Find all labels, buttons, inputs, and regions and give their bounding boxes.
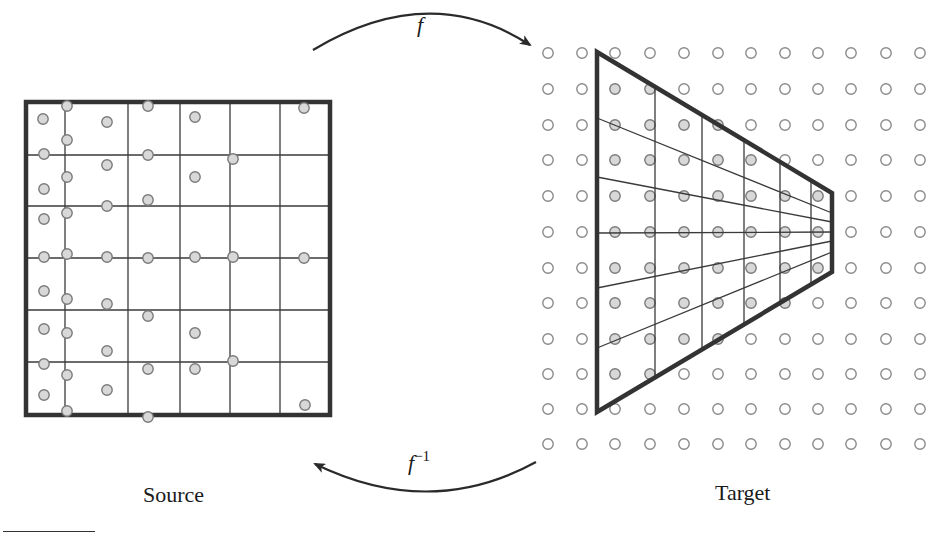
target-sample-filled — [746, 263, 756, 273]
target-sample-filled — [813, 191, 823, 201]
target-sample-empty — [746, 404, 756, 414]
target-sample-empty — [543, 404, 553, 414]
source-sample-point — [143, 412, 153, 422]
source-sample-point — [143, 101, 153, 111]
target-sample-empty — [577, 120, 587, 130]
target-sample-filled — [610, 155, 620, 165]
target-sample-filled — [645, 298, 655, 308]
target-sample-empty — [577, 155, 587, 165]
target-sample-empty — [780, 404, 790, 414]
forward-map-label: f — [417, 12, 423, 38]
target-sample-empty — [746, 439, 756, 449]
source-sample-point — [228, 356, 238, 366]
target-sample-empty — [543, 48, 553, 58]
target-sample-empty — [543, 298, 553, 308]
source-sample-point — [38, 114, 48, 124]
target-sample-filled — [610, 263, 620, 273]
target-warped-grid — [597, 52, 832, 412]
target-sample-empty — [713, 404, 723, 414]
target-sample-empty — [915, 263, 925, 273]
target-sample-empty — [713, 439, 723, 449]
target-sample-empty — [881, 155, 891, 165]
source-sample-point — [190, 112, 200, 122]
source-sample-point — [39, 252, 49, 262]
target-sample-empty — [543, 227, 553, 237]
target-sample-filled — [645, 334, 655, 344]
source-sample-point — [62, 135, 72, 145]
source-sample-point — [39, 359, 49, 369]
target-sample-filled — [610, 227, 620, 237]
target-sample-empty — [881, 298, 891, 308]
target-sample-empty — [846, 120, 856, 130]
target-sample-filled — [610, 298, 620, 308]
target-sample-empty — [780, 120, 790, 130]
source-sample-point — [102, 299, 112, 309]
target-sample-empty — [915, 48, 925, 58]
target-sample-empty — [679, 439, 689, 449]
source-sample-point — [228, 154, 238, 164]
target-sample-empty — [881, 48, 891, 58]
target-sample-empty — [846, 334, 856, 344]
target-sample-empty — [713, 84, 723, 94]
target-sample-empty — [543, 191, 553, 201]
target-sample-empty — [915, 155, 925, 165]
target-sample-empty — [780, 48, 790, 58]
image-warping-diagram — [0, 0, 947, 546]
footnote-divider — [3, 531, 95, 532]
target-sample-empty — [846, 298, 856, 308]
target-sample-empty — [915, 369, 925, 379]
target-sample-empty — [746, 48, 756, 58]
source-sample-point — [62, 406, 72, 416]
target-sample-empty — [577, 191, 587, 201]
target-sample-filled — [645, 120, 655, 130]
target-sample-empty — [679, 84, 689, 94]
source-sample-point — [102, 117, 112, 127]
target-sample-empty — [679, 369, 689, 379]
target-sample-empty — [846, 84, 856, 94]
target-sample-empty — [543, 120, 553, 130]
target-sample-filled — [645, 227, 655, 237]
target-sample-empty — [780, 334, 790, 344]
target-sample-filled — [645, 155, 655, 165]
target-sample-filled — [679, 334, 689, 344]
target-sample-empty — [813, 334, 823, 344]
source-sample-point — [143, 195, 153, 205]
target-sample-empty — [577, 298, 587, 308]
target-sample-empty — [915, 404, 925, 414]
target-sample-filled — [610, 84, 620, 94]
target-sample-empty — [746, 369, 756, 379]
target-sample-empty — [577, 439, 587, 449]
source-sample-point — [190, 172, 200, 182]
target-sample-empty — [780, 369, 790, 379]
target-sample-filled — [746, 191, 756, 201]
target-sample-filled — [679, 298, 689, 308]
source-sample-point — [190, 252, 200, 262]
target-sample-empty — [881, 369, 891, 379]
source-sample-point — [62, 249, 72, 259]
source-sample-point — [143, 364, 153, 374]
target-sample-empty — [846, 369, 856, 379]
target-sample-filled — [645, 263, 655, 273]
source-sample-point — [39, 286, 49, 296]
target-grid-line — [597, 177, 832, 222]
target-sample-empty — [543, 263, 553, 273]
source-sample-point — [62, 172, 72, 182]
target-sample-empty — [846, 439, 856, 449]
source-sample-point — [102, 385, 112, 395]
source-sample-point — [190, 328, 200, 338]
target-sample-empty — [813, 298, 823, 308]
target-sample-empty — [881, 263, 891, 273]
target-sample-filled — [746, 155, 756, 165]
target-sample-empty — [577, 369, 587, 379]
target-sample-empty — [881, 84, 891, 94]
target-sample-empty — [881, 439, 891, 449]
target-grid-line — [597, 232, 832, 233]
target-sample-empty — [577, 227, 587, 237]
target-sample-empty — [813, 404, 823, 414]
target-sample-empty — [881, 191, 891, 201]
target-sample-empty — [915, 84, 925, 94]
target-sample-empty — [610, 48, 620, 58]
target-sample-empty — [915, 191, 925, 201]
target-sample-empty — [543, 439, 553, 449]
target-sample-empty — [543, 155, 553, 165]
